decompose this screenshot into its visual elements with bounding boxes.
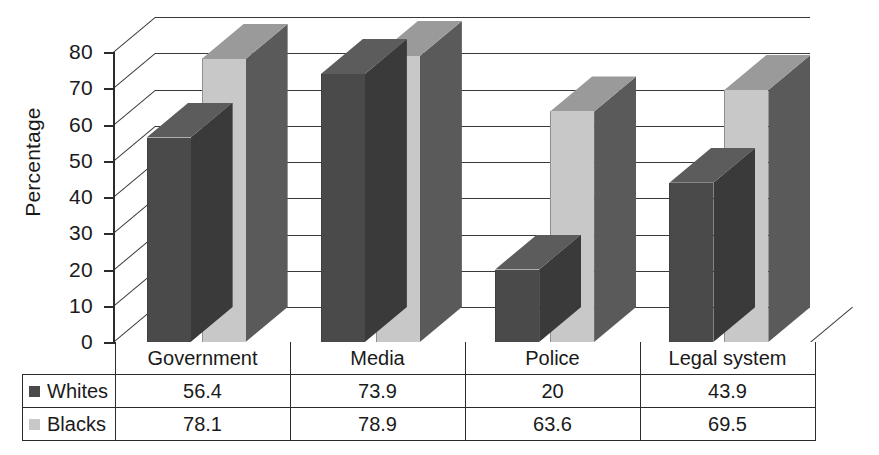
y-tick-label: 80 [47, 41, 93, 62]
y-tick-label: 10 [47, 295, 93, 316]
legend-swatch-icon [29, 386, 40, 397]
table-row: Blacks78.178.963.669.5 [23, 408, 816, 441]
table-column-header: Legal system [640, 342, 815, 375]
bar-front-face [495, 270, 539, 343]
table-column-header: Government [115, 342, 290, 375]
legend-cell-whites: Whites [23, 375, 116, 408]
bar-whites-police [495, 235, 581, 343]
table-cell: 73.9 [290, 375, 465, 408]
bar-side-face [420, 21, 462, 342]
table-header-row: GovernmentMediaPoliceLegal system [23, 342, 816, 375]
plot-area: 01020304050607080 Percentage [0, 0, 879, 348]
table-row: Whites56.473.92043.9 [23, 375, 816, 408]
table-cell: 78.1 [115, 408, 290, 441]
y-tick-label: 60 [47, 114, 93, 135]
table-column-header: Media [290, 342, 465, 375]
y-tick [104, 88, 113, 90]
table-cell: 78.9 [290, 408, 465, 441]
legend-label: Blacks [47, 413, 106, 435]
y-tick-label: 40 [47, 186, 93, 207]
y-tick [104, 125, 113, 127]
data-table: GovernmentMediaPoliceLegal systemWhites5… [22, 342, 816, 441]
table-cell: 43.9 [640, 375, 815, 408]
y-tick-label: 30 [47, 222, 93, 243]
y-tick-label: 20 [47, 259, 93, 280]
y-tick [104, 233, 113, 235]
bar-side-face [246, 24, 288, 342]
y-tick [104, 161, 113, 163]
y-tick [104, 270, 113, 272]
y-axis-line [113, 52, 115, 343]
y-tick [104, 197, 113, 199]
bar-whites-legal-system [669, 148, 755, 342]
bar-side-face [365, 39, 407, 342]
legend-label: Whites [47, 380, 108, 402]
bar-front-face [321, 74, 365, 342]
depth-riser [113, 53, 156, 89]
chart-figure: 01020304050607080 Percentage GovernmentM… [0, 0, 879, 455]
bar-whites-government [147, 103, 233, 342]
y-tick [104, 52, 113, 54]
bar-front-face [147, 138, 191, 342]
bar-side-face [191, 103, 233, 342]
bar-side-face [594, 76, 636, 342]
bar-front-face [669, 183, 713, 342]
legend-cell-blacks: Blacks [23, 408, 116, 441]
table-cell: 69.5 [640, 408, 815, 441]
table-cell: 20 [465, 375, 640, 408]
y-axis-title: Percentage [21, 67, 45, 257]
table-cell: 63.6 [465, 408, 640, 441]
table-column-header: Police [465, 342, 640, 375]
gridline [155, 17, 810, 18]
table-corner-cell [23, 342, 116, 375]
floor-right-edge [810, 307, 853, 343]
bar-side-face [768, 55, 810, 342]
y-tick-label: 70 [47, 77, 93, 98]
table-cell: 56.4 [115, 375, 290, 408]
y-tick [104, 306, 113, 308]
bar-whites-media [321, 39, 407, 342]
legend-swatch-icon [29, 419, 40, 430]
y-tick-label: 50 [47, 150, 93, 171]
depth-riser [113, 17, 156, 53]
